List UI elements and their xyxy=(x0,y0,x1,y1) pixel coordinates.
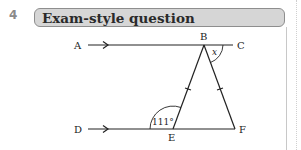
angle-e-value: 111° xyxy=(152,117,174,127)
angle-x-label: x xyxy=(212,47,217,57)
label-a: A xyxy=(73,40,82,51)
label-b: B xyxy=(200,31,207,42)
label-d: D xyxy=(74,124,82,135)
geometry-diagram: A B C D E F 111° x xyxy=(0,0,301,150)
label-c: C xyxy=(237,40,245,51)
label-f: F xyxy=(239,124,246,135)
line-be xyxy=(173,45,204,129)
label-e: E xyxy=(168,132,175,143)
line-bf xyxy=(204,45,235,129)
